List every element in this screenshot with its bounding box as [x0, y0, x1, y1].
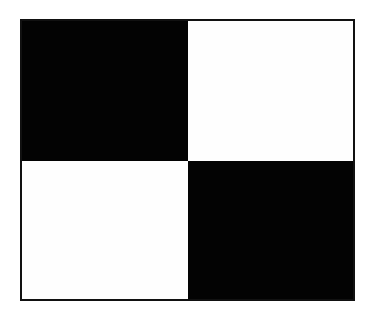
checkerboard-grid — [20, 19, 355, 301]
cell-top-right — [188, 21, 353, 161]
cell-top-left — [22, 21, 188, 161]
canvas — [0, 0, 370, 325]
cell-bottom-right — [188, 161, 353, 299]
cell-bottom-left — [22, 161, 188, 299]
